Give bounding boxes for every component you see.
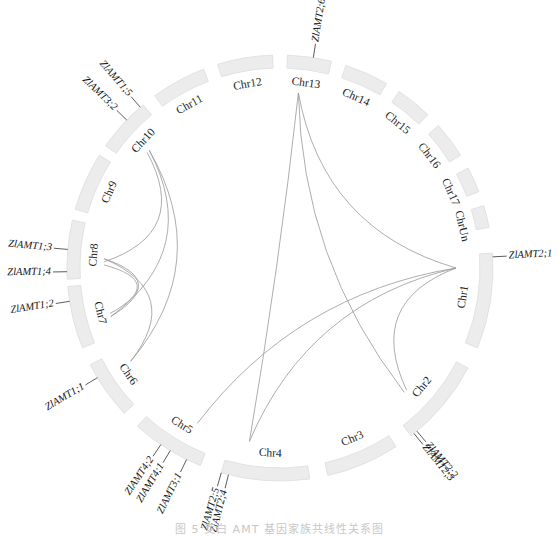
gene-tick	[417, 431, 426, 442]
chromosome-chr1	[465, 253, 493, 348]
synteny-link	[197, 268, 456, 423]
gene-tick	[131, 97, 140, 108]
synteny-link	[104, 265, 137, 314]
synteny-link	[131, 150, 178, 361]
chromosome-chr13	[287, 55, 332, 74]
chromosome-chrun	[471, 206, 489, 230]
synteny-link	[298, 93, 456, 268]
chromosome-label: Chr1	[455, 284, 470, 309]
chromosome-label: ChrUn	[453, 209, 472, 242]
gene-tick	[153, 445, 161, 457]
chromosome-chr12	[218, 55, 273, 77]
gene-tick	[414, 434, 423, 445]
figure-caption: 图 5 茭白 AMT 基因家族共线性关系图	[0, 520, 559, 536]
chromosome-label: Chr9	[99, 179, 119, 205]
gene-tick	[54, 248, 68, 249]
gene-label: ZlAMT2;1	[508, 247, 552, 260]
synteny-link	[104, 153, 161, 262]
synteny-link	[394, 268, 456, 390]
chromosome-label: Chr3	[339, 428, 365, 448]
chromosome-chr8	[67, 220, 85, 279]
gene-tick	[217, 473, 221, 486]
chromosome-label: Chr14	[341, 86, 372, 109]
gene-label: ZlAMT1;2	[10, 297, 56, 315]
chromosome-label: Chr7	[92, 300, 109, 325]
chromosome-label: Chr6	[117, 361, 140, 387]
chromosome-chr3	[325, 436, 396, 476]
gene-tick	[56, 301, 70, 303]
gene-label: ZlAMT1;4	[7, 265, 52, 277]
gene-tick	[313, 44, 315, 58]
gene-tick	[163, 451, 170, 463]
chromosome-label: Chr4	[259, 446, 283, 459]
synteny-link	[249, 93, 298, 441]
chromosome-chr4	[221, 460, 309, 481]
synteny-link	[111, 150, 169, 316]
gene-label: ZlAMT1;1	[43, 380, 86, 412]
chromosome-chr7	[68, 285, 95, 347]
chromosome-ring: Chr1Chr2Chr3Chr4Chr5Chr6Chr7Chr8Chr9Chr1…	[67, 55, 493, 481]
chromosome-label: Chr17	[440, 176, 463, 207]
synteny-links	[104, 93, 456, 441]
chromosome-label: Chr12	[232, 75, 263, 92]
gene-tick	[493, 256, 507, 257]
chromosome-chr2	[403, 362, 468, 436]
chromosome-label: Chr2	[409, 374, 433, 400]
gene-label: ZlAMT1;3	[8, 238, 53, 253]
chromosome-label: Chr8	[86, 243, 100, 267]
chromosome-label: Chr5	[169, 413, 195, 435]
synteny-link	[298, 93, 404, 392]
gene-label: ZlAMT2;6	[309, 0, 327, 43]
gene-tick	[225, 475, 228, 489]
gene-tick	[180, 459, 186, 472]
chromosome-label: Chr13	[291, 75, 321, 91]
gene-tick	[85, 378, 97, 385]
gene-tick	[117, 110, 127, 120]
chromosome-chr17	[457, 168, 479, 196]
